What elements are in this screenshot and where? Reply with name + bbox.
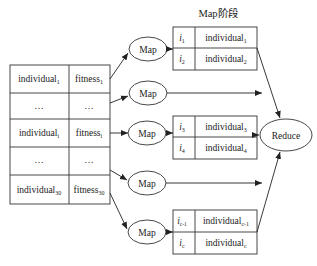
output-key: ic-1 bbox=[177, 216, 187, 227]
table-to-map-arrows bbox=[110, 53, 128, 229]
reduce-node: Reduce bbox=[257, 119, 312, 151]
map-node: Map bbox=[128, 121, 166, 145]
arrow bbox=[110, 193, 127, 229]
output-key: i3 bbox=[179, 122, 185, 133]
table-cell-individual: individual1 bbox=[18, 74, 60, 85]
output-value: individual3 bbox=[205, 122, 247, 133]
map-node: Map bbox=[129, 81, 167, 105]
svg-text:Map: Map bbox=[138, 129, 156, 139]
map-node: Map bbox=[128, 171, 166, 195]
table-cell-ellipsis: … bbox=[34, 101, 44, 111]
output-key: i4 bbox=[179, 143, 185, 154]
arrow bbox=[110, 96, 128, 103]
map-nodes: Map Map Map Map Map bbox=[128, 37, 167, 244]
output-key: i2 bbox=[179, 54, 185, 65]
output-key: ic bbox=[179, 238, 185, 249]
table-cell-individual: individual30 bbox=[17, 185, 62, 196]
table-cell-ellipsis: … bbox=[84, 155, 94, 165]
output-value: individual4 bbox=[205, 143, 247, 154]
arrow bbox=[110, 170, 127, 180]
map-node: Map bbox=[128, 220, 166, 244]
svg-text:Map: Map bbox=[139, 89, 157, 99]
svg-text:Map: Map bbox=[139, 45, 157, 55]
svg-text:Reduce: Reduce bbox=[272, 131, 301, 141]
arrow bbox=[110, 53, 128, 79]
table-cell-ellipsis: … bbox=[34, 155, 44, 165]
map-output-text: i1 individual1 i2 individual2 i3 individ… bbox=[177, 33, 249, 249]
population-table-text: individual1 fitness1 … … individuali fit… bbox=[17, 74, 105, 196]
stage-label: Map阶段 bbox=[198, 7, 238, 19]
table-cell-ellipsis: … bbox=[84, 101, 94, 111]
svg-text:Map: Map bbox=[138, 179, 156, 189]
table-cell-fitness: fitnessi bbox=[76, 128, 103, 139]
output-value: individual1 bbox=[205, 33, 247, 44]
arrow bbox=[257, 152, 280, 232]
table-cell-individual: individuali bbox=[19, 128, 60, 139]
output-value: individualc-1 bbox=[203, 216, 249, 227]
output-value: individualc bbox=[205, 238, 247, 249]
map-node: Map bbox=[129, 37, 167, 61]
output-value: individual2 bbox=[205, 54, 247, 65]
output-key: i1 bbox=[179, 33, 185, 44]
table-cell-fitness: fitness1 bbox=[75, 74, 103, 85]
mapreduce-diagram: Map阶段 individual1 fitness1 … … individua… bbox=[0, 0, 317, 266]
arrow bbox=[257, 48, 280, 118]
map-to-output-arrows bbox=[166, 49, 262, 232]
svg-text:Map: Map bbox=[138, 228, 156, 238]
table-cell-fitness: fitness30 bbox=[74, 185, 105, 196]
